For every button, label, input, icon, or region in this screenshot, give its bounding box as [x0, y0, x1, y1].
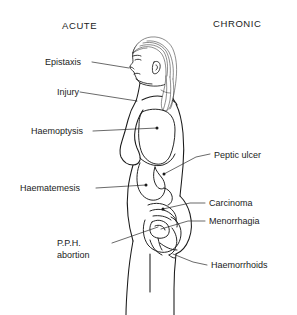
heading-chronic: CHRONIC — [213, 18, 262, 29]
anus-mark — [169, 255, 175, 258]
dot-haematemesis — [145, 184, 148, 187]
label-abortion: abortion — [57, 250, 90, 260]
leader-epistaxis — [92, 62, 129, 68]
front-leg-contour — [126, 241, 133, 315]
dot-carcinoma — [162, 208, 165, 211]
label-haematemesis: Haematemesis — [20, 183, 81, 193]
labels-right-group: Peptic ulcer Carcinoma Menorrhagia Haemo… — [209, 150, 268, 270]
leader-haemorrhoids — [173, 254, 207, 265]
uterus-outline — [150, 220, 169, 238]
anatomical-diagram: ACUTE CHRONIC Epistaxis Injury Haemoptys… — [0, 0, 297, 315]
body-front-contour — [120, 101, 143, 165]
pelvic-arc-1 — [160, 243, 177, 250]
label-peptic-ulcer: Peptic ulcer — [214, 150, 261, 160]
leader-peptic-ulcer — [164, 154, 210, 174]
label-injury: Injury — [57, 87, 80, 97]
bowel-coil-1 — [148, 203, 176, 221]
label-haemoptysis: Haemoptysis — [31, 126, 84, 136]
label-menorrhagia: Menorrhagia — [209, 216, 260, 226]
label-carcinoma: Carcinoma — [209, 198, 253, 208]
back-contour — [176, 104, 184, 196]
diagram-canvas: ACUTE CHRONIC Epistaxis Injury Haemoptys… — [0, 0, 297, 315]
lung-outline — [139, 109, 175, 164]
labels-left-group: Epistaxis Injury Haemoptysis Haematemesi… — [20, 57, 90, 260]
organs-group — [137, 109, 181, 258]
label-epistaxis: Epistaxis — [45, 57, 82, 67]
leader-pph — [112, 227, 158, 243]
abdomen-front-contour — [127, 165, 133, 241]
dot-haemoptysis — [156, 127, 159, 130]
body-outline-group — [120, 83, 191, 315]
neck-front — [136, 83, 140, 101]
back-leg-contour — [174, 254, 176, 315]
heading-acute: ACUTE — [62, 20, 97, 31]
dot-peptic-ulcer — [163, 173, 166, 176]
head-group — [130, 37, 177, 111]
leader-injury — [80, 92, 137, 101]
label-haemorrhoids: Haemorrhoids — [211, 260, 268, 270]
headings-group: ACUTE CHRONIC — [62, 18, 262, 31]
label-pph: P.P.H. — [57, 238, 81, 248]
bowel-coil-3 — [153, 216, 171, 220]
stomach-outline — [137, 163, 165, 200]
